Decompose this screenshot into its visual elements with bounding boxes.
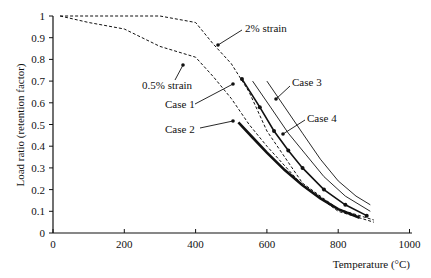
marker — [343, 203, 347, 207]
y-tick-label: 0 — [40, 227, 46, 239]
marker — [301, 166, 305, 170]
y-axis-label: Load ratio (retention factor) — [14, 63, 27, 186]
chart: 0200400600800100000.10.20.30.40.50.60.70… — [0, 0, 431, 278]
annotation-label: Case 4 — [307, 112, 337, 124]
y-tick-label: 1 — [40, 10, 46, 22]
y-tick-label: 0.5 — [31, 119, 45, 131]
arrow-head-icon — [274, 97, 278, 101]
annotation-label: 0.5% strain — [142, 79, 193, 91]
y-tick-label: 0.3 — [31, 162, 45, 174]
y-tick-label: 0.9 — [31, 32, 45, 44]
arrow-icon — [218, 30, 242, 45]
annotation-label: Case 1 — [165, 98, 195, 110]
series-case-2 — [238, 122, 359, 218]
y-tick-label: 0.6 — [31, 97, 45, 109]
annotation-label: Case 3 — [292, 76, 322, 88]
x-tick-label: 0 — [50, 238, 56, 250]
y-tick-label: 0.4 — [31, 140, 45, 152]
marker — [322, 188, 326, 192]
marker — [365, 214, 369, 218]
x-axis-label: Temperature (°C) — [333, 258, 411, 271]
y-tick-label: 0.2 — [31, 184, 45, 196]
arrow-icon — [276, 86, 290, 99]
arrow-head-icon — [231, 82, 235, 86]
marker — [286, 149, 290, 153]
x-tick-label: 400 — [187, 238, 204, 250]
marker — [240, 77, 244, 81]
marker — [272, 129, 276, 133]
x-tick-label: 200 — [116, 238, 133, 250]
y-tick-label: 0.1 — [31, 205, 45, 217]
marker — [258, 105, 262, 109]
y-tick-label: 0.7 — [31, 75, 45, 87]
annotation-label: 2% strain — [245, 22, 287, 34]
x-tick-label: 1000 — [399, 238, 422, 250]
y-tick-label: 0.8 — [31, 53, 45, 65]
arrow-icon — [175, 65, 183, 80]
arrow-head-icon — [181, 63, 185, 67]
arrow-head-icon — [281, 132, 285, 136]
arrow-icon — [200, 121, 233, 128]
annotation-label: Case 2 — [165, 123, 195, 135]
annotations: 2% strain0.5% strainCase 1Case 2Case 3Ca… — [142, 22, 337, 136]
x-tick-label: 800 — [330, 238, 347, 250]
x-tick-label: 600 — [259, 238, 276, 250]
arrow-head-icon — [216, 43, 220, 47]
arrow-head-icon — [231, 119, 235, 123]
